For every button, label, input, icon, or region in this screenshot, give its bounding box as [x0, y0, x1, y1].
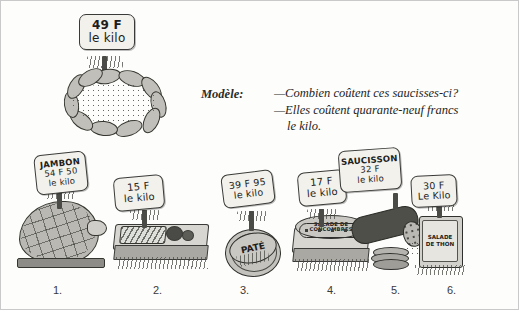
- crumb-speckle: [71, 83, 157, 123]
- model-dialogue: —Combien coûtent ces saucisses-ci? —Elle…: [274, 85, 509, 135]
- sign-unit: le kilo: [48, 176, 75, 188]
- sign-unit: le kilo: [307, 187, 339, 200]
- sign-unit: Le Kilo: [418, 190, 451, 202]
- sign-unit: le kilo: [124, 192, 156, 205]
- price-sign-item-1[interactable]: JAMBON 54 F 50 le kilo: [33, 150, 89, 195]
- ham-bone: [87, 220, 107, 236]
- model-question: —Combien coûtent ces saucisses-ci?: [274, 85, 509, 102]
- model-sign-post-hatching: [87, 56, 123, 68]
- item-number-2: 2.: [153, 284, 162, 296]
- item-number-6: 6.: [447, 284, 456, 296]
- sign-unit: le kilo: [233, 187, 264, 201]
- price-sign-item-6[interactable]: 30 F Le Kilo: [410, 174, 458, 208]
- price-sign-item-2[interactable]: 15 F le kilo: [113, 174, 166, 212]
- tuna-can-label-text: SALADE DE THON: [425, 234, 455, 248]
- item-number-5: 5.: [391, 284, 400, 296]
- item-5-sign-post: [393, 193, 398, 209]
- price-sign-model[interactable]: 49 F le kilo: [79, 14, 135, 50]
- item-6-base-hatching: [415, 265, 465, 275]
- olive: [182, 230, 194, 241]
- tray-shadow-hatching: [116, 257, 208, 269]
- model-label: Modèle:: [201, 87, 243, 102]
- item-1-base: [17, 258, 105, 268]
- item-3-post-hatching: [237, 211, 267, 221]
- item-4-post-hatching: [307, 209, 337, 219]
- item-number-1: 1.: [53, 284, 62, 296]
- model-answer-line2: le kilo.: [274, 118, 509, 135]
- price-sign-item-5[interactable]: SAUCISSON 32 F le kilo: [338, 147, 403, 193]
- item-number-3: 3.: [240, 284, 249, 296]
- model-answer-line1: —Elles coûtent quarante-neuf francs: [274, 102, 509, 119]
- sign-unit: le kilo: [357, 174, 384, 185]
- olive: [166, 226, 183, 241]
- tuna-can-label: SALADE DE THON: [422, 220, 458, 262]
- illustration-page: 49 F le kilo Modèle: —Combien coûtent ce…: [0, 0, 519, 310]
- price-sign-item-3[interactable]: 39 F 95 le kilo: [220, 169, 276, 209]
- tray-charcuterie-slices: [119, 226, 167, 244]
- sign-unit: le kilo: [89, 32, 126, 45]
- item-number-4: 4.: [327, 284, 336, 296]
- item-2-post-hatching: [130, 210, 160, 220]
